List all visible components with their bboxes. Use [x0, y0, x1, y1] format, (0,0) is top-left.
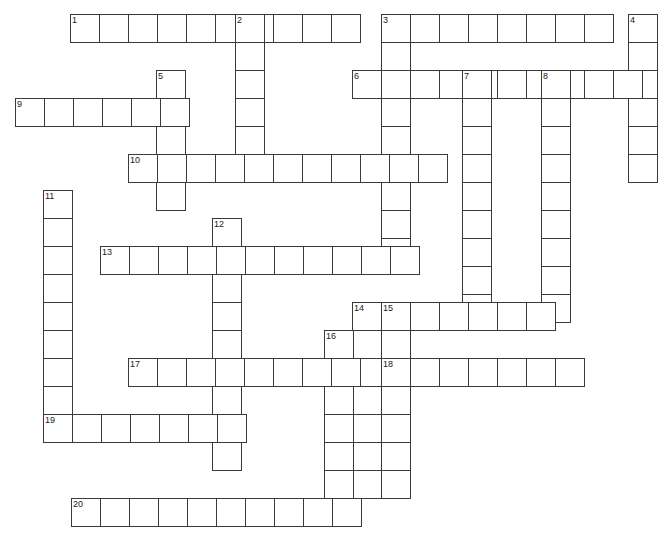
crossword-cell[interactable] — [628, 126, 658, 155]
crossword-cell[interactable] — [158, 246, 188, 275]
crossword-cell[interactable] — [158, 498, 188, 527]
crossword-cell[interactable] — [360, 154, 390, 183]
crossword-cell[interactable] — [212, 274, 242, 303]
crossword-cell[interactable] — [131, 98, 161, 127]
crossword-cell[interactable] — [555, 14, 585, 43]
crossword-cell[interactable] — [462, 182, 492, 211]
crossword-cell[interactable] — [389, 154, 419, 183]
crossword-cell[interactable] — [381, 126, 411, 155]
crossword-cell[interactable] — [584, 14, 614, 43]
crossword-cell[interactable] — [541, 154, 571, 183]
crossword-cell[interactable] — [381, 70, 411, 99]
crossword-cell[interactable] — [462, 210, 492, 239]
crossword-cell[interactable] — [418, 154, 448, 183]
crossword-cell[interactable] — [157, 358, 187, 387]
crossword-cell[interactable] — [352, 386, 382, 415]
crossword-cell[interactable] — [43, 386, 73, 415]
crossword-cell[interactable] — [73, 98, 103, 127]
crossword-cell[interactable] — [156, 70, 186, 99]
crossword-cell[interactable] — [462, 126, 492, 155]
crossword-cell[interactable] — [244, 154, 274, 183]
crossword-cell[interactable] — [129, 246, 159, 275]
crossword-cell[interactable] — [100, 246, 130, 275]
crossword-cell[interactable] — [541, 238, 571, 267]
crossword-cell[interactable] — [235, 126, 265, 155]
crossword-cell[interactable] — [555, 358, 585, 387]
crossword-cell[interactable] — [526, 358, 556, 387]
crossword-cell[interactable] — [324, 442, 354, 471]
crossword-cell[interactable] — [43, 302, 73, 331]
crossword-cell[interactable] — [43, 218, 73, 247]
crossword-cell[interactable] — [331, 154, 361, 183]
crossword-cell[interactable] — [157, 14, 187, 43]
crossword-cell[interactable] — [628, 154, 658, 183]
crossword-cell[interactable] — [462, 238, 492, 267]
crossword-cell[interactable] — [156, 182, 186, 211]
crossword-cell[interactable] — [381, 386, 411, 415]
crossword-cell[interactable] — [352, 470, 382, 499]
crossword-cell[interactable] — [541, 182, 571, 211]
crossword-cell[interactable] — [159, 414, 189, 443]
crossword-cell[interactable] — [584, 70, 614, 99]
crossword-cell[interactable] — [324, 330, 354, 359]
crossword-cell[interactable] — [157, 154, 187, 183]
crossword-cell[interactable] — [274, 498, 304, 527]
crossword-cell[interactable] — [186, 14, 216, 43]
crossword-cell[interactable] — [70, 14, 100, 43]
crossword-cell[interactable] — [215, 154, 245, 183]
crossword-cell[interactable] — [462, 70, 492, 99]
crossword-cell[interactable] — [273, 358, 303, 387]
crossword-cell[interactable] — [273, 154, 303, 183]
crossword-cell[interactable] — [160, 98, 190, 127]
crossword-cell[interactable] — [187, 498, 217, 527]
crossword-cell[interactable] — [628, 14, 658, 43]
crossword-cell[interactable] — [526, 302, 556, 331]
crossword-cell[interactable] — [352, 442, 382, 471]
crossword-cell[interactable] — [381, 442, 411, 471]
crossword-cell[interactable] — [324, 386, 354, 415]
crossword-cell[interactable] — [130, 414, 160, 443]
crossword-cell[interactable] — [15, 98, 45, 127]
crossword-cell[interactable] — [541, 98, 571, 127]
crossword-cell[interactable] — [43, 274, 73, 303]
crossword-cell[interactable] — [381, 470, 411, 499]
crossword-cell[interactable] — [352, 330, 382, 359]
crossword-cell[interactable] — [352, 302, 382, 331]
crossword-cell[interactable] — [245, 498, 275, 527]
crossword-cell[interactable] — [216, 246, 246, 275]
crossword-cell[interactable] — [497, 302, 527, 331]
crossword-cell[interactable] — [302, 358, 332, 387]
crossword-cell[interactable] — [352, 414, 382, 443]
crossword-cell[interactable] — [381, 14, 411, 43]
crossword-cell[interactable] — [235, 70, 265, 99]
crossword-cell[interactable] — [361, 246, 391, 275]
crossword-cell[interactable] — [462, 154, 492, 183]
crossword-cell[interactable] — [129, 498, 159, 527]
crossword-cell[interactable] — [44, 98, 74, 127]
crossword-cell[interactable] — [212, 302, 242, 331]
crossword-cell[interactable] — [332, 246, 362, 275]
crossword-cell[interactable] — [497, 358, 527, 387]
crossword-cell[interactable] — [212, 330, 242, 359]
crossword-cell[interactable] — [72, 414, 102, 443]
crossword-cell[interactable] — [235, 42, 265, 71]
crossword-cell[interactable] — [381, 210, 411, 239]
crossword-cell[interactable] — [216, 498, 246, 527]
crossword-cell[interactable] — [274, 246, 304, 275]
crossword-cell[interactable] — [43, 414, 73, 443]
crossword-cell[interactable] — [235, 98, 265, 127]
crossword-cell[interactable] — [331, 358, 361, 387]
crossword-cell[interactable] — [212, 218, 242, 247]
crossword-cell[interactable] — [303, 246, 333, 275]
crossword-cell[interactable] — [235, 14, 265, 43]
crossword-cell[interactable] — [439, 14, 469, 43]
crossword-cell[interactable] — [212, 442, 242, 471]
crossword-cell[interactable] — [381, 302, 411, 331]
crossword-cell[interactable] — [102, 98, 132, 127]
crossword-cell[interactable] — [381, 42, 411, 71]
crossword-cell[interactable] — [156, 126, 186, 155]
crossword-cell[interactable] — [43, 246, 73, 275]
crossword-cell[interactable] — [128, 154, 158, 183]
crossword-cell[interactable] — [217, 414, 247, 443]
crossword-cell[interactable] — [187, 246, 217, 275]
